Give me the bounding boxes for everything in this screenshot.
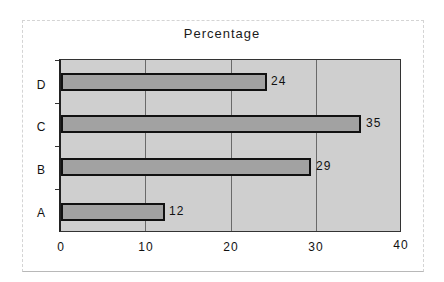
- category-label-c: C: [34, 120, 48, 134]
- data-label-b: 29: [316, 159, 331, 173]
- category-label-b: B: [34, 163, 48, 177]
- x-tick-0: 0: [57, 240, 65, 254]
- bar-b: [61, 158, 311, 176]
- x-tick-40: 40: [393, 238, 408, 252]
- data-label-c: 35: [366, 116, 381, 130]
- y-tick-mark: [55, 189, 59, 190]
- data-label-d: 24: [271, 74, 286, 88]
- chart-title: Percentage: [0, 26, 444, 41]
- bar-a: [61, 203, 165, 221]
- gridline-30: [316, 60, 317, 231]
- x-tick-30: 30: [308, 240, 323, 254]
- y-tick-mark: [55, 146, 59, 147]
- bar-c: [61, 115, 361, 133]
- plot-area: 24 35 29 12: [59, 59, 401, 232]
- x-tick-20: 20: [223, 240, 238, 254]
- category-label-a: A: [34, 206, 48, 220]
- bar-d: [61, 73, 267, 91]
- x-tick-10: 10: [138, 240, 153, 254]
- y-tick-mark: [55, 60, 59, 61]
- category-label-d: D: [34, 78, 48, 92]
- y-tick-mark: [55, 103, 59, 104]
- data-label-a: 12: [169, 204, 184, 218]
